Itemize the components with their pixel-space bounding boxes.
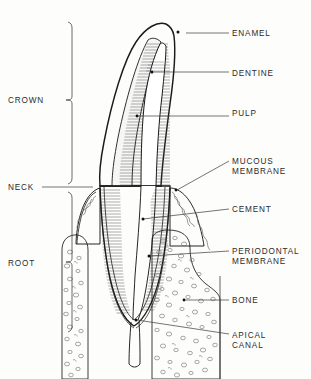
root-brace: [66, 192, 72, 332]
label-periodontal-line-1: MEMBRANE: [232, 257, 286, 266]
tooth-diagram-canvas: ENAMEL DENTINE PULP MUCOUS MEMBRANE CEME…: [0, 0, 311, 379]
label-enamel: ENAMEL: [232, 29, 271, 38]
label-periodontal-membrane: PERIODONTAL MEMBRANE: [232, 247, 299, 266]
label-enamel-line-0: ENAMEL: [232, 29, 271, 38]
tooth-diagram: ENAMEL DENTINE PULP MUCOUS MEMBRANE CEME…: [0, 0, 311, 379]
apical-canal: [129, 322, 140, 367]
bone-trabecular-texture-left: [64, 250, 84, 377]
label-apical-line-1: CANAL: [232, 341, 264, 350]
label-neck: NECK: [8, 183, 34, 192]
label-bone: BONE: [232, 296, 259, 305]
bone-left: [62, 235, 88, 379]
label-mucous-membrane: MUCOUS MEMBRANE: [232, 157, 286, 176]
label-pulp-line-0: PULP: [232, 109, 257, 118]
crown-brace: [66, 22, 72, 184]
label-periodontal-line-0: PERIODONTAL: [232, 247, 299, 256]
label-bone-line-0: BONE: [232, 296, 259, 305]
label-mucous-line-1: MEMBRANE: [232, 167, 286, 176]
label-root: ROOT: [8, 259, 35, 268]
label-cement-line-0: CEMENT: [232, 205, 272, 214]
label-mucous-line-0: MUCOUS: [232, 157, 274, 166]
label-crown: CROWN: [8, 96, 44, 105]
label-pulp: PULP: [232, 109, 257, 118]
label-apical-canal: APICAL CANAL: [232, 331, 266, 350]
label-dentine: DENTINE: [232, 69, 274, 78]
label-dentine-line-0: DENTINE: [232, 69, 274, 78]
label-cement: CEMENT: [232, 205, 272, 214]
leader-mucous: [177, 161, 229, 190]
label-apical-line-0: APICAL: [232, 331, 266, 340]
leader-apical: [137, 320, 229, 334]
